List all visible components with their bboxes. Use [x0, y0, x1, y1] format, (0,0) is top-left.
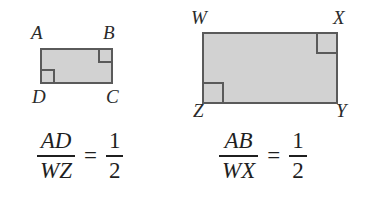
vertex-label-d: D [32, 87, 46, 106]
right-angle-mark-d-icon [42, 69, 55, 82]
right-angle-mark-x-icon [316, 34, 336, 54]
equals-sign: = [258, 143, 289, 169]
fraction-bar [289, 155, 307, 157]
fraction-numerator: 1 [106, 129, 124, 153]
fraction-numerator: 1 [289, 129, 307, 153]
fraction-one-half: 1 2 [106, 129, 124, 183]
fraction-bar [37, 155, 75, 157]
equation-ab-wx: AB WX = 1 2 [219, 129, 307, 183]
fraction-numerator: AD [38, 129, 75, 153]
right-angle-mark-b-icon [98, 50, 111, 63]
vertex-label-w: W [191, 8, 207, 27]
fraction-denominator: WX [219, 159, 258, 183]
fraction-numerator: AB [222, 129, 256, 153]
fraction-denominator: 2 [289, 159, 307, 183]
geometry-figure: A B D C W X Z Y AD WZ = 1 2 [0, 0, 367, 204]
fraction-denominator: 2 [106, 159, 124, 183]
vertex-label-a: A [31, 23, 43, 42]
fraction-bar [106, 155, 124, 157]
fraction-ad-over-wz: AD WZ [37, 129, 75, 183]
fraction-denominator: WZ [37, 159, 75, 183]
vertex-label-b: B [103, 23, 115, 42]
equation-ad-wz: AD WZ = 1 2 [37, 129, 123, 183]
vertex-label-c: C [106, 87, 119, 106]
right-angle-mark-z-icon [204, 82, 224, 102]
fraction-one-half: 1 2 [289, 129, 307, 183]
fraction-bar [219, 155, 258, 157]
equals-sign: = [75, 143, 106, 169]
vertex-label-y: Y [336, 101, 347, 120]
fraction-ab-over-wx: AB WX [219, 129, 258, 183]
vertex-label-x: X [333, 8, 345, 27]
vertex-label-z: Z [193, 101, 204, 120]
